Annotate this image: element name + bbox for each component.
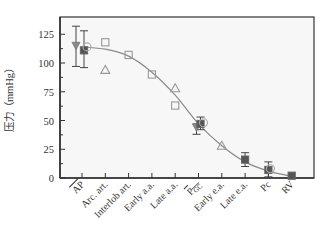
y-tick-label: 125 xyxy=(38,29,54,40)
chart-svg: 0255075100125压力（mmHg）APArc. art.Interlob… xyxy=(0,0,330,226)
x-tick-label-group: RV xyxy=(279,178,297,196)
x-tick-label-group: AP xyxy=(70,178,87,195)
x-tick-label-group: Pc xyxy=(258,178,273,193)
x-tick-label: RV xyxy=(279,178,297,196)
y-axis-label: 压力（mmHg） xyxy=(3,63,15,132)
y-tick-label: 25 xyxy=(44,144,55,155)
x-tick-label: AP xyxy=(70,178,87,195)
y-tick-label: 75 xyxy=(44,87,55,98)
filled-square-marker xyxy=(288,172,295,179)
y-tick-label: 50 xyxy=(44,116,55,127)
x-tick-label: Pc xyxy=(258,178,273,193)
y-tick-label: 100 xyxy=(38,58,54,69)
filled-square-marker xyxy=(242,156,249,163)
y-tick-label: 0 xyxy=(49,173,54,184)
plot-frame xyxy=(60,17,314,178)
pressure-profile-chart: 0255075100125压力（mmHg）APArc. art.Interlob… xyxy=(0,0,330,226)
